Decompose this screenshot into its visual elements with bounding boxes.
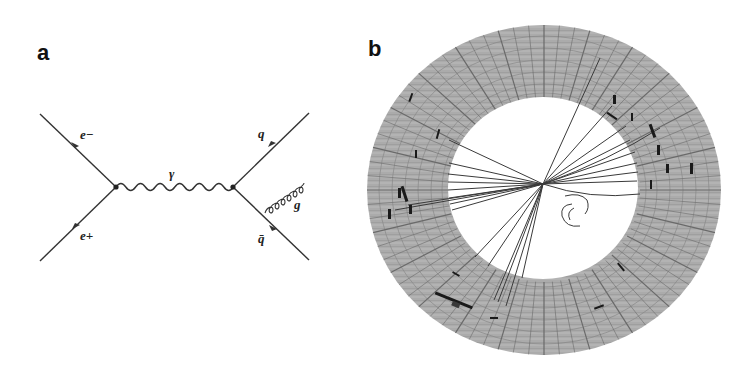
detector-event-display	[0, 0, 748, 368]
